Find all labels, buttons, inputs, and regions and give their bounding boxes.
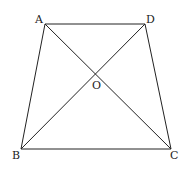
vertex-label-c: C — [170, 149, 178, 162]
trapezoid-diagram: A D B C O — [0, 0, 193, 169]
vertex-label-a: A — [34, 13, 44, 26]
segment-dc — [145, 24, 171, 149]
segment-ba — [21, 24, 45, 149]
vertex-label-b: B — [12, 149, 20, 162]
diagonal-bd — [21, 24, 145, 149]
vertex-label-d: D — [146, 13, 155, 26]
intersection-label-o: O — [92, 79, 101, 92]
diagonal-ac — [45, 24, 171, 149]
